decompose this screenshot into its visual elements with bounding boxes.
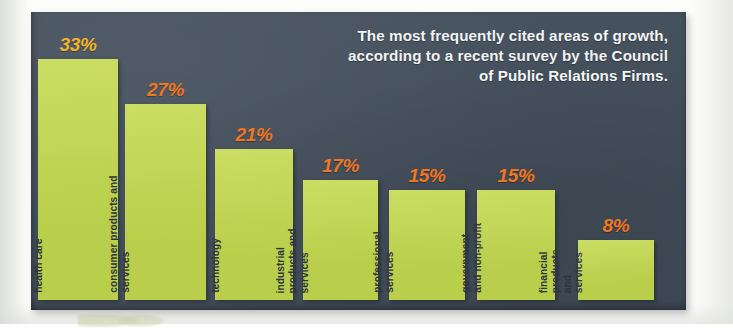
bar-category-label: consumer products and services	[108, 176, 132, 293]
bar-value-label: 15%	[408, 165, 445, 187]
bar[interactable]: health care	[38, 59, 118, 300]
bar-group: health care33%	[38, 59, 118, 300]
bar-value-label: 8%	[603, 215, 630, 237]
bar-category-label: technology	[210, 238, 222, 293]
bar-category-label: government and non-profit	[460, 223, 484, 293]
bar-category-label: professional services	[372, 232, 396, 293]
bar[interactable]: professional services	[389, 190, 465, 300]
bar-group: industrial products and services17%	[303, 180, 378, 300]
chart-title: The most frequently cited areas of growt…	[338, 26, 668, 87]
bar[interactable]: industrial products and services	[303, 180, 378, 300]
bar[interactable]: consumer products and services	[125, 104, 206, 300]
bar-group: financial products and services8%	[578, 240, 654, 300]
bar-value-label: 21%	[235, 124, 272, 146]
bar-group: professional services15%	[389, 190, 465, 300]
bar-group: consumer products and services27%	[125, 104, 206, 300]
bar-category-label: health care	[33, 239, 45, 293]
bar-category-label: industrial products and services	[275, 228, 310, 293]
bar-value-label: 17%	[322, 155, 359, 177]
bar-value-label: 33%	[59, 34, 96, 56]
bar[interactable]: financial products and services	[578, 240, 654, 300]
chart-panel: The most frequently cited areas of growt…	[31, 12, 686, 310]
bar-category-label: financial products and services	[538, 249, 585, 293]
bar-value-label: 15%	[497, 165, 534, 187]
bar-value-label: 27%	[147, 79, 184, 101]
